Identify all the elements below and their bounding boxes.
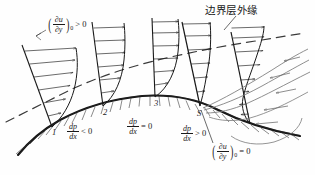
station-label-s: S [197,109,201,118]
station-label-2: 2 [103,108,107,117]
velocity-profile-3 [152,18,179,97]
dpdx-negative-label: dpdx< 0 [67,122,92,141]
wall-surface [18,95,300,155]
outer-edge-label: 边界层外缘 [205,5,258,16]
paren-open-1: ( [48,16,51,33]
shear-zero-label: (∂u∂y)0= 0 [211,142,250,161]
dpdx-relation-2: = 0 [139,122,152,131]
shear-relation-2: = 0 [237,147,250,156]
shear-positive-label: (∂u∂y)0> 0 [47,15,86,34]
boundary-layer-separation-figure: (∂u∂y)0> 0 边界层外缘 (∂u∂y)0= 0 dpdx< 0 dpdx… [0,0,315,175]
shear-relation-1: > 0 [73,20,86,29]
dpdx-positive-label: dpdx> 0 [181,124,206,143]
station-label-1: 1 [52,128,56,137]
shear-fraction-1: ∂u∂y [53,15,65,34]
dpdx-fraction-3: dpdx [181,124,193,143]
dpdx-zero-label: dpdx= 0 [127,117,152,136]
dpdx-relation-3: > 0 [193,129,206,138]
dpdx-relation-1: < 0 [79,127,92,136]
dpdx-fraction-1: dpdx [67,122,79,141]
paren-close-2: ) [230,143,233,160]
shear-fraction-2: ∂u∂y [217,142,229,161]
velocity-profile-2 [92,22,125,106]
station-label-3: 3 [154,99,158,108]
dpdx-fraction-2: dpdx [127,117,139,136]
paren-open-2: ( [212,143,215,160]
velocity-profile-reverse [231,26,264,124]
paren-close-1: ) [66,16,69,33]
velocity-profile-1 [22,30,77,127]
